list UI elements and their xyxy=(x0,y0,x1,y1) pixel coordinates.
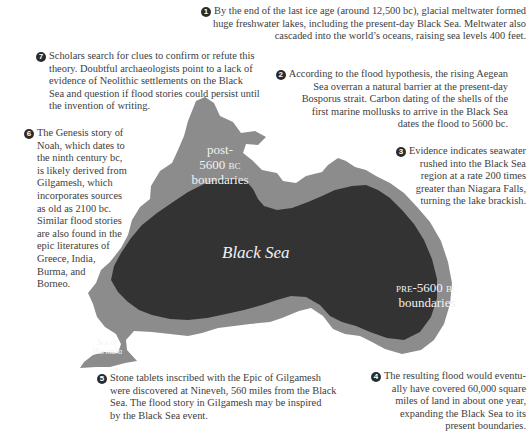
note-7: 7Scholars search for clues to confirm or… xyxy=(36,50,266,113)
note-line: huge freshwater lakes, including the pre… xyxy=(166,18,526,31)
note-line: region at a rate 200 times xyxy=(376,170,526,183)
marmara-label-line: Marmara xyxy=(82,347,132,356)
note-line: dates the flood to 5600 bc. xyxy=(268,118,508,131)
note-line: By the end of the last ice age (around 1… xyxy=(214,5,526,16)
note-5: 5Stone tablets inscribed with the Epic o… xyxy=(97,372,337,422)
note-line: were discovered at Nineveh, 560 miles fr… xyxy=(97,385,337,398)
marmara-label-line: Sea of xyxy=(82,338,132,347)
note-line: cascaded into the world’s oceans, raisin… xyxy=(166,30,526,43)
note-3: 3Evidence indicates seawater rushed into… xyxy=(376,145,526,208)
note-line: evidence of Neolithic settlements on the… xyxy=(36,75,266,88)
pre-label-line: boundaries xyxy=(372,295,482,310)
note-line: Sea. The flood story in Gilgamesh may be… xyxy=(97,397,337,410)
note-1: 1By the end of the last ice age (around … xyxy=(166,5,526,43)
note-line: as old as 2100 bc. xyxy=(24,203,136,216)
note-line: The Genesis story of xyxy=(37,127,123,138)
note-line: greater than Niagara Falls, xyxy=(376,183,526,196)
number-badge-icon: 3 xyxy=(396,147,406,157)
post-5600-label: post- 5600 bc boundaries xyxy=(170,142,270,187)
post-label-line: post- xyxy=(170,142,270,157)
note-line: Noah, which dates to xyxy=(24,140,136,153)
pre-5600-label: pre-5600 bc boundaries xyxy=(372,280,482,310)
note-line: Stone tablets inscribed with the Epic of… xyxy=(110,372,321,383)
pre-label-line: pre-5600 bc xyxy=(372,280,482,295)
note-line: Sea and question if flood stories could … xyxy=(36,88,266,101)
note-line: rushed into the Black Sea xyxy=(376,158,526,171)
note-line: is likely derived from xyxy=(24,165,136,178)
note-2: 2According to the flood hypothesis, the … xyxy=(268,68,508,131)
note-line: theory. Doubtful archaeologists point to… xyxy=(36,63,266,76)
number-badge-icon: 4 xyxy=(371,372,381,382)
number-badge-icon: 5 xyxy=(97,374,107,384)
note-line: by the Black Sea event. xyxy=(97,410,337,423)
note-line: incorporates sources xyxy=(24,190,136,203)
note-line: epic literatures of xyxy=(24,240,136,253)
note-line: Bosporus strait. Carbon dating of the sh… xyxy=(268,93,508,106)
number-badge-icon: 6 xyxy=(24,129,34,139)
note-line: The resulting flood would eventu- xyxy=(384,370,526,381)
note-line: ally have covered 60,000 square xyxy=(356,383,526,396)
number-badge-icon: 1 xyxy=(201,7,211,17)
note-line: Borneo. xyxy=(24,278,136,291)
note-line: Gilgamesh, which xyxy=(24,177,136,190)
sea-of-marmara-label: Sea of Marmara xyxy=(82,338,132,356)
note-line: Scholars search for clues to confirm or … xyxy=(49,50,254,61)
note-line: turning the lake brackish. xyxy=(376,195,526,208)
note-line: Burma, and xyxy=(24,266,136,279)
black-sea-label: Black Sea xyxy=(222,243,290,263)
note-6: 6The Genesis story of Noah, which dates … xyxy=(24,127,136,291)
note-line: miles of land in about one year, xyxy=(356,395,526,408)
note-line: the invention of writing. xyxy=(36,100,266,113)
note-line: the ninth century bc, xyxy=(24,152,136,165)
note-line: present boundaries. xyxy=(356,420,526,433)
number-badge-icon: 2 xyxy=(276,70,286,80)
post-label-line: boundaries xyxy=(170,172,270,187)
note-line: expanding the Black Sea to its xyxy=(356,408,526,421)
note-line: first marine mollusks to arrive in the B… xyxy=(268,106,508,119)
note-line: Similar flood stories xyxy=(24,215,136,228)
note-line: Evidence indicates seawater xyxy=(409,145,526,156)
note-line: Sea overran a natural barrier at the pre… xyxy=(268,81,508,94)
note-line: Greece, India, xyxy=(24,253,136,266)
note-line: are also found in the xyxy=(24,228,136,241)
note-line: According to the flood hypothesis, the r… xyxy=(289,68,508,79)
note-4: 4The resulting flood would eventu- ally … xyxy=(356,370,526,433)
number-badge-icon: 7 xyxy=(36,52,46,62)
post-label-line: 5600 bc xyxy=(170,157,270,172)
